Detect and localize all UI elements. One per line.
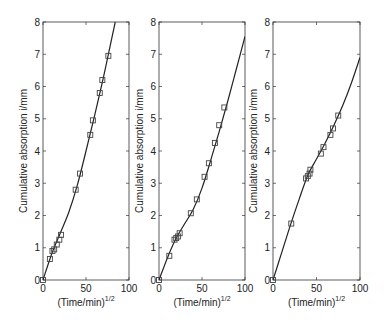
x-axis-label: (Time/min)1/2 <box>57 295 114 308</box>
y-tick-label: 6 <box>264 81 270 92</box>
y-tick-label: 5 <box>264 113 270 124</box>
x-tick-label: 0 <box>40 283 46 294</box>
x-tick-label: 100 <box>237 283 254 294</box>
y-tick-label: 7 <box>150 49 156 60</box>
chart-panel-3: 012345678050100Cumulative absorption i/m… <box>248 17 369 309</box>
x-tick-label: 50 <box>196 283 208 294</box>
y-tick-label: 4 <box>150 146 156 157</box>
x-axis-label: (Time/min)1/2 <box>288 295 345 308</box>
y-tick-label: 2 <box>150 210 156 221</box>
y-tick-label: 5 <box>150 113 156 124</box>
x-tick-label: 50 <box>311 283 323 294</box>
chart-panel-2: 012345678050100Cumulative absorption i/m… <box>134 17 254 309</box>
chart-panel-1: 012345678050100Cumulative absorption i/m… <box>18 17 138 309</box>
y-axis-label: Cumulative absorption i/mm <box>18 89 29 213</box>
y-tick-label: 7 <box>34 49 40 60</box>
x-tick-label: 0 <box>270 283 276 294</box>
y-tick-label: 4 <box>34 146 40 157</box>
fit-curve <box>43 22 115 280</box>
y-tick-label: 6 <box>34 81 40 92</box>
fit-curve <box>159 37 245 280</box>
x-axis-label: (Time/min)1/2 <box>173 295 230 308</box>
x-tick-label: 50 <box>80 283 92 294</box>
y-tick-label: 7 <box>264 49 270 60</box>
y-axis-label: Cumulative absorption i/mm <box>134 89 145 213</box>
y-tick-label: 8 <box>150 17 156 28</box>
chart-figure: 012345678050100Cumulative absorption i/m… <box>0 0 388 326</box>
plot-area <box>273 22 360 280</box>
y-tick-label: 3 <box>34 178 40 189</box>
y-tick-label: 4 <box>264 146 270 157</box>
y-tick-label: 8 <box>34 17 40 28</box>
y-tick-label: 8 <box>264 17 270 28</box>
y-tick-label: 1 <box>34 242 40 253</box>
x-tick-label: 100 <box>352 283 369 294</box>
y-tick-label: 2 <box>34 210 40 221</box>
y-tick-label: 1 <box>264 242 270 253</box>
y-axis-label: Cumulative absorption i/mm <box>248 89 259 213</box>
fit-curve <box>273 57 360 280</box>
y-tick-label: 3 <box>150 178 156 189</box>
y-tick-label: 5 <box>34 113 40 124</box>
x-tick-label: 0 <box>156 283 162 294</box>
x-tick-label: 100 <box>121 283 138 294</box>
y-tick-label: 3 <box>264 178 270 189</box>
y-tick-label: 6 <box>150 81 156 92</box>
y-tick-label: 1 <box>150 242 156 253</box>
y-tick-label: 2 <box>264 210 270 221</box>
